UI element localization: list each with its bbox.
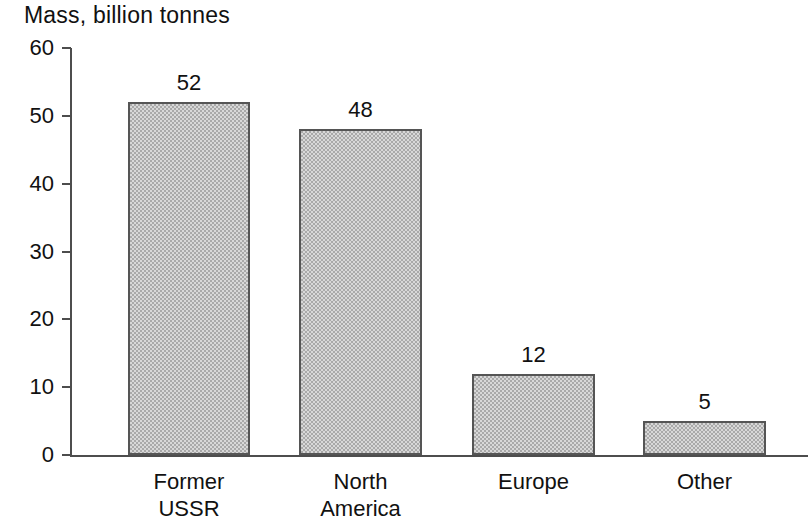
y-axis-tick xyxy=(62,386,71,388)
x-axis-category-line: America xyxy=(279,495,442,522)
x-axis-category-label: Other xyxy=(623,468,786,495)
bar xyxy=(128,102,250,455)
y-axis-tick-label: 60 xyxy=(0,37,54,59)
x-axis-category-line: Former xyxy=(108,468,270,495)
x-axis-category-label: Europe xyxy=(452,468,615,495)
x-axis-category-line: North xyxy=(279,468,442,495)
x-axis-category-line: Other xyxy=(623,468,786,495)
y-axis-tick-label: 40 xyxy=(0,173,54,195)
y-axis-tick xyxy=(62,183,71,185)
chart-title: Mass, billion tonnes xyxy=(24,0,230,30)
bar-value-label: 52 xyxy=(128,72,250,94)
y-axis-line xyxy=(70,48,72,457)
y-axis-tick xyxy=(62,251,71,253)
x-axis-line xyxy=(70,455,808,457)
bar xyxy=(643,421,766,455)
bar xyxy=(472,374,595,455)
bar-value-label: 5 xyxy=(643,391,766,413)
y-axis-tick xyxy=(62,115,71,117)
x-axis-category-label: NorthAmerica xyxy=(279,468,442,522)
bar-value-label: 12 xyxy=(472,344,595,366)
y-axis-tick xyxy=(62,318,71,320)
bar-chart: Mass, billion tonnes 6050403020100 52481… xyxy=(0,0,810,526)
x-axis-category-line: USSR xyxy=(108,495,270,522)
y-axis-tick xyxy=(62,47,71,49)
x-axis-category-line: Europe xyxy=(452,468,615,495)
y-axis-tick-label: 50 xyxy=(0,105,54,127)
y-axis-tick-label: 20 xyxy=(0,308,54,330)
y-axis-tick-label: 30 xyxy=(0,241,54,263)
y-axis-tick xyxy=(62,454,71,456)
y-axis-tick-label: 0 xyxy=(0,444,54,466)
x-axis-category-label: FormerUSSR xyxy=(108,468,270,522)
y-axis-tick-label: 10 xyxy=(0,376,54,398)
bar xyxy=(299,129,422,455)
bar-value-label: 48 xyxy=(299,99,422,121)
